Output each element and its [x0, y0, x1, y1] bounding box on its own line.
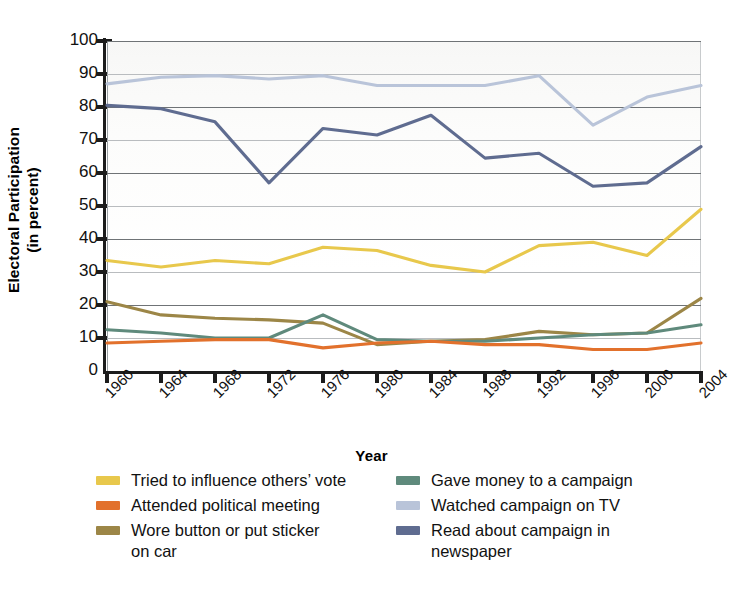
legend-item-label-line-2: newspaper	[431, 541, 610, 562]
y-tick-label-90: 90	[54, 63, 98, 83]
legend-item-label: Tried to influence others’ vote	[131, 470, 346, 491]
y-axis-tick-labels: 0102030405060708090100	[40, 41, 98, 597]
y-axis-line	[103, 38, 106, 374]
legend-item-label: Attended political meeting	[131, 495, 320, 516]
y-tick-label-80: 80	[54, 96, 98, 116]
x-axis-title: Year	[0, 447, 743, 464]
y-tick-label-40: 40	[54, 228, 98, 248]
legend-item[interactable]: Attended political meeting	[96, 495, 396, 516]
legend-item[interactable]: Watched campaign on TV	[396, 495, 726, 516]
legend-item-label: Watched campaign on TV	[431, 495, 620, 516]
legend-swatch-icon	[96, 476, 120, 485]
legend-column-left: Tried to influence others’ voteAttended …	[96, 470, 396, 566]
legend-swatch-icon	[396, 526, 420, 535]
series-lines	[107, 41, 701, 371]
legend-swatch-icon	[96, 501, 120, 510]
series-line-3	[107, 315, 701, 341]
chart-legend: Tried to influence others’ voteAttended …	[96, 470, 726, 580]
legend-item-label: Wore button or put stickeron car	[131, 520, 320, 562]
legend-item[interactable]: Tried to influence others’ vote	[96, 470, 396, 491]
legend-swatch-icon	[396, 476, 420, 485]
legend-item-label: Gave money to a campaign	[431, 470, 633, 491]
y-tick-label-100: 100	[54, 30, 98, 50]
y-tick-label-30: 30	[54, 261, 98, 281]
legend-swatch-icon	[396, 501, 420, 510]
legend-item[interactable]: Wore button or put stickeron car	[96, 520, 396, 562]
series-line-5	[107, 105, 701, 186]
y-tick-label-70: 70	[54, 129, 98, 149]
y-tick-label-10: 10	[54, 327, 98, 347]
y-axis-title: Electoral Participation (in percent)	[3, 45, 43, 375]
y-tick-label-0: 0	[54, 360, 98, 380]
legend-item[interactable]: Gave money to a campaign	[396, 470, 726, 491]
legend-item-label-line-2: on car	[131, 541, 320, 562]
y-tick-label-20: 20	[54, 294, 98, 314]
plot-area	[107, 41, 701, 371]
y-tick-label-50: 50	[54, 195, 98, 215]
legend-item[interactable]: Read about campaign innewspaper	[396, 520, 726, 562]
y-tick-label-60: 60	[54, 162, 98, 182]
series-line-0	[107, 209, 701, 272]
electoral-participation-line-chart: Electoral Participation (in percent) 010…	[0, 0, 743, 597]
series-line-1	[107, 340, 701, 350]
legend-item-label: Read about campaign innewspaper	[431, 520, 610, 562]
legend-swatch-icon	[96, 526, 120, 535]
legend-column-right: Gave money to a campaignWatched campaign…	[396, 470, 726, 566]
x-axis-tick-labels: 1960196419681972197619801984198819921996…	[0, 389, 743, 449]
y-axis-title-line-1: Electoral Participation	[4, 127, 23, 293]
